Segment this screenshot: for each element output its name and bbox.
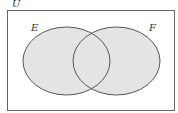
venn-diagram: U E F bbox=[0, 0, 178, 113]
universe-label: U bbox=[12, 0, 21, 9]
set-e-label: E bbox=[30, 22, 39, 33]
set-f-label: F bbox=[148, 22, 157, 33]
